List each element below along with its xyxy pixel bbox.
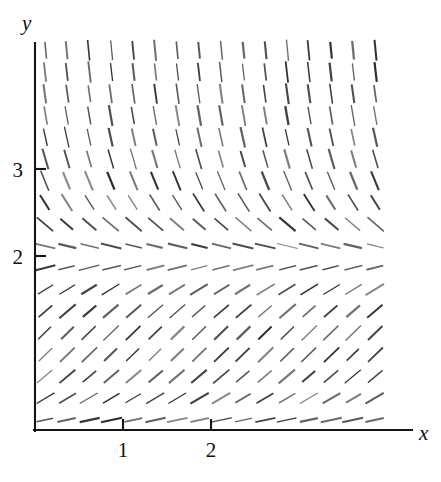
x-axis-label: x [418, 421, 429, 445]
slope-field-plot: y x 1223 [0, 0, 441, 482]
slope-field-figure: y x 1223 [0, 0, 441, 482]
y-axis-label: y [20, 11, 32, 35]
y-tick-label: 2 [13, 245, 24, 269]
y-tick-label: 3 [13, 158, 24, 182]
x-tick-label: 1 [118, 438, 129, 462]
x-tick-label: 2 [206, 438, 217, 462]
